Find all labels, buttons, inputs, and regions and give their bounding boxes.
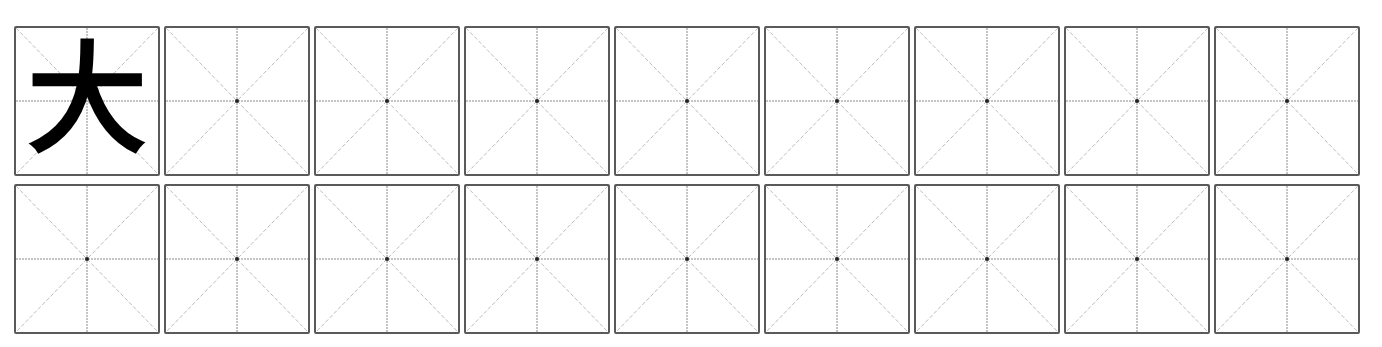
practice-cell[interactable] <box>1214 26 1360 176</box>
practice-cell[interactable] <box>1064 26 1210 176</box>
practice-cell[interactable] <box>764 26 910 176</box>
model-character <box>616 28 758 174</box>
practice-cell[interactable] <box>764 184 910 334</box>
model-character <box>616 186 758 332</box>
model-character <box>466 28 608 174</box>
practice-cell[interactable] <box>464 26 610 176</box>
model-character <box>466 186 608 332</box>
practice-cell[interactable]: 大 <box>14 26 160 176</box>
model-character <box>916 186 1058 332</box>
model-character <box>316 28 458 174</box>
model-character <box>166 186 308 332</box>
grid-row-1: 大 <box>14 26 1364 176</box>
practice-cell[interactable] <box>1064 184 1210 334</box>
grid-row-2 <box>14 184 1364 334</box>
practice-cell[interactable] <box>914 184 1060 334</box>
practice-cell[interactable] <box>464 184 610 334</box>
practice-sheet: 大 <box>14 26 1374 342</box>
practice-cell[interactable] <box>1214 184 1360 334</box>
practice-cell[interactable] <box>164 184 310 334</box>
practice-cell[interactable] <box>164 26 310 176</box>
model-character: 大 <box>16 28 158 174</box>
model-character <box>766 186 908 332</box>
model-character <box>16 186 158 332</box>
model-character <box>766 28 908 174</box>
model-character <box>1216 28 1358 174</box>
model-character <box>1066 28 1208 174</box>
practice-cell[interactable] <box>314 184 460 334</box>
practice-cell[interactable] <box>914 26 1060 176</box>
model-character <box>316 186 458 332</box>
practice-cell[interactable] <box>14 184 160 334</box>
model-character <box>166 28 308 174</box>
model-character <box>1216 186 1358 332</box>
model-character <box>916 28 1058 174</box>
practice-cell[interactable] <box>614 184 760 334</box>
practice-cell[interactable] <box>314 26 460 176</box>
practice-cell[interactable] <box>614 26 760 176</box>
model-character <box>1066 186 1208 332</box>
